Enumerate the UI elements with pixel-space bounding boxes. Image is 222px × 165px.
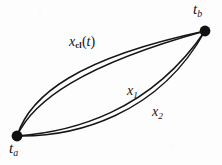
endpoint-label-ta: ta	[9, 141, 18, 158]
endpoint-label-tb: tb	[193, 2, 202, 19]
label-xcl-subscript: cl	[75, 40, 82, 50]
curve-xcl-upper	[17, 31, 205, 136]
curve-label-xcl: xcl(t)	[69, 35, 95, 50]
endpoint-dot-ta	[12, 131, 23, 142]
curve-x1	[17, 31, 205, 136]
label-x2-subscript: 2	[158, 111, 163, 121]
curve-label-x1: x1	[127, 84, 138, 100]
curve-xcl-lower	[17, 31, 205, 136]
curve-group-xcl	[17, 31, 205, 136]
label-x1-subscript: 1	[133, 90, 138, 100]
curve-label-x2: x2	[152, 105, 163, 121]
endpoint-dot-tb	[200, 26, 211, 37]
curve-x2	[17, 31, 205, 136]
curve-group-x2	[17, 31, 205, 136]
label-ta-subscript: a	[13, 147, 18, 158]
label-xcl-paren-close: )	[90, 34, 95, 49]
label-tb-subscript: b	[197, 8, 202, 19]
trajectory-svg	[0, 0, 222, 165]
curve-group-x1	[17, 31, 205, 136]
figure-canvas: tb ta xcl(t) x1 x2	[0, 0, 222, 165]
